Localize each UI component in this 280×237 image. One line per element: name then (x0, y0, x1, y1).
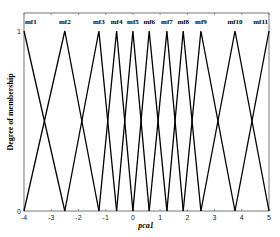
mf-label-mf1: mf1 (25, 18, 37, 26)
mf-curve-mf9 (183, 31, 235, 211)
mf-curve-mf3 (65, 31, 117, 211)
mf-curve-mf5 (117, 31, 150, 211)
x-axis-title: pca1 (137, 221, 154, 230)
mf-label-mf5: mf5 (127, 18, 139, 26)
mf-label-mf4: mf4 (111, 18, 123, 26)
x-tick-label: -3 (48, 214, 54, 221)
y-axis-title: Degree of membership (6, 73, 15, 151)
y-tick-label: 0 (17, 208, 21, 215)
x-tick-label: 4 (240, 214, 244, 221)
mf-curve-mf7 (149, 31, 183, 211)
mf-curve-mf6 (133, 31, 167, 211)
y-tick-label: 1 (17, 28, 21, 35)
membership-curves (24, 31, 269, 211)
membership-function-chart: -4-3-2-1012345 01 mf1mf2mf3mf4mf5mf6mf7m… (0, 0, 280, 237)
mf-label-mf9: mf9 (195, 18, 207, 26)
mf-label-mf3: mf3 (93, 18, 105, 26)
x-tick-label: -1 (103, 214, 109, 221)
mf-label-mf6: mf6 (143, 18, 155, 26)
mf-curve-mf2 (24, 31, 99, 211)
mf-curve-mf8 (167, 31, 201, 211)
mf-label-mf7: mf7 (161, 18, 173, 26)
x-tick-label: 2 (185, 214, 189, 221)
mf-curve-mf4 (99, 31, 133, 211)
mf-curve-mf10 (201, 31, 269, 211)
mf-label-mf11: mf11 (253, 18, 268, 26)
mf-label-mf2: mf2 (59, 18, 71, 26)
mf-label-mf10: mf10 (227, 18, 243, 26)
x-tick-label: -4 (21, 214, 27, 221)
x-tick-label: 0 (131, 214, 135, 221)
mf-label-mf8: mf8 (177, 18, 189, 26)
x-tick-label: 3 (213, 214, 217, 221)
x-tick-label: 1 (158, 214, 162, 221)
y-axis-ticks: 01 (17, 28, 21, 215)
x-tick-label: 5 (267, 214, 271, 221)
mf-labels: mf1mf2mf3mf4mf5mf6mf7mf8mf9mf10mf11 (25, 18, 268, 26)
x-tick-label: -2 (75, 214, 81, 221)
